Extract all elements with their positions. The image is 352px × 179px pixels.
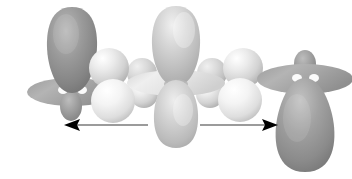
orbital-diagram-canvas: Orbital dissociation diagram A central m…	[0, 0, 352, 179]
center-lower-specular	[173, 94, 193, 126]
center-upper-specular	[173, 12, 195, 48]
left-orbital-minor-lobe	[60, 91, 82, 121]
left-orbital-specular	[53, 14, 79, 54]
right-orbital-specular	[283, 94, 311, 142]
orbital-diagram-svg	[0, 0, 352, 179]
